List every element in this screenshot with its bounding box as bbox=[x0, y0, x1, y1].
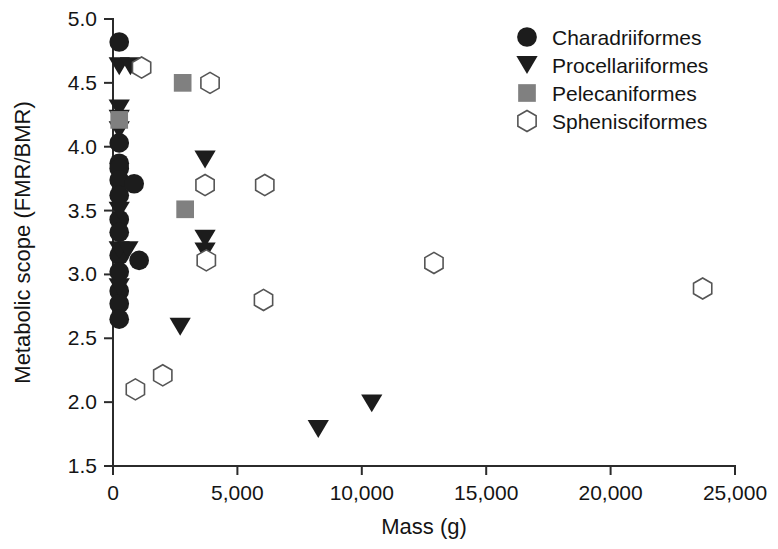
data-point bbox=[129, 251, 149, 271]
data-point bbox=[154, 365, 172, 386]
data-point bbox=[110, 111, 128, 129]
data-point bbox=[109, 32, 129, 52]
y-tick-label: 4.0 bbox=[68, 135, 97, 158]
x-tick-label: 10,000 bbox=[330, 481, 394, 504]
y-axis-title: Metabolic scope (FMR/BMR) bbox=[10, 101, 35, 383]
data-point bbox=[126, 379, 144, 400]
legend-label: Charadriiformes bbox=[552, 26, 701, 49]
y-tick-label: 2.0 bbox=[68, 390, 97, 413]
data-point bbox=[425, 252, 443, 273]
data-point bbox=[109, 222, 129, 242]
series-sphenisciformes bbox=[126, 57, 712, 400]
plot-canvas: 1.52.02.53.03.54.04.55.005,00010,00015,0… bbox=[0, 0, 778, 549]
legend-entry: Pelecaniformes bbox=[518, 82, 697, 105]
y-tick-label: 5.0 bbox=[68, 7, 97, 30]
data-point bbox=[174, 74, 192, 92]
x-tick-label: 15,000 bbox=[454, 481, 518, 504]
legend-entry: Sphenisciformes bbox=[518, 110, 707, 133]
data-point bbox=[196, 174, 214, 195]
data-point bbox=[361, 394, 382, 412]
x-tick-label: 0 bbox=[107, 481, 119, 504]
scatter-plot-figure: 1.52.02.53.03.54.04.55.005,00010,00015,0… bbox=[0, 0, 778, 549]
x-tick-label: 20,000 bbox=[578, 481, 642, 504]
data-point bbox=[254, 289, 272, 310]
legend-label: Pelecaniformes bbox=[552, 82, 697, 105]
x-axis-title: Mass (g) bbox=[381, 514, 467, 539]
legend: CharadriiformesProcellariiformesPelecani… bbox=[516, 26, 708, 133]
legend-marker-filled-circle bbox=[517, 27, 537, 47]
legend-label: Procellariiformes bbox=[552, 54, 708, 77]
data-point bbox=[197, 250, 215, 271]
data-point bbox=[124, 174, 144, 194]
legend-marker-open-hexagon bbox=[518, 110, 536, 131]
legend-entry: Charadriiformes bbox=[517, 26, 701, 49]
data-point bbox=[194, 151, 215, 169]
data-point bbox=[256, 174, 274, 195]
data-point bbox=[201, 72, 219, 93]
y-tick-label: 3.5 bbox=[68, 199, 97, 222]
data-point bbox=[694, 278, 712, 299]
data-point bbox=[176, 200, 194, 218]
y-tick-label: 4.5 bbox=[68, 71, 97, 94]
x-tick-label: 5,000 bbox=[211, 481, 264, 504]
legend-marker-filled-square bbox=[518, 84, 536, 102]
y-tick-label: 1.5 bbox=[68, 454, 97, 477]
legend-entry: Procellariiformes bbox=[516, 54, 708, 77]
data-point bbox=[132, 57, 150, 78]
legend-label: Sphenisciformes bbox=[552, 110, 707, 133]
data-point bbox=[170, 318, 191, 336]
y-tick-label: 2.5 bbox=[68, 326, 97, 349]
series-procellariiformes bbox=[109, 57, 383, 438]
legend-marker-filled-triangle-down bbox=[516, 56, 537, 74]
x-tick-label: 25,000 bbox=[703, 481, 767, 504]
data-point bbox=[308, 420, 329, 438]
data-point bbox=[109, 309, 129, 329]
y-tick-label: 3.0 bbox=[68, 262, 97, 285]
